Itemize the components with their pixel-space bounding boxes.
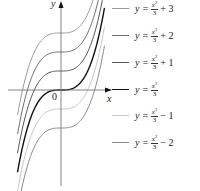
y-axis-label: y <box>51 0 55 9</box>
legend-item: y = x33 + 2 <box>112 26 173 44</box>
legend-item: y = x33 <box>112 80 160 98</box>
legend-label: y = x33 + 1 <box>135 53 173 71</box>
legend-item: y = x33 − 1 <box>112 106 173 124</box>
legend-swatch <box>112 35 129 36</box>
legend-label: y = x33 − 1 <box>135 106 173 124</box>
legend-swatch <box>112 115 129 116</box>
legend-swatch <box>112 8 129 9</box>
x-axis-label: x <box>107 93 111 104</box>
legend-swatch <box>112 62 129 63</box>
legend: y = x33 + 3 y = x33 + 2 y = x33 + 1 y = … <box>112 0 200 191</box>
legend-label: y = x33 + 2 <box>135 26 173 44</box>
origin-label: 0 <box>52 91 57 102</box>
legend-label: y = x33 − 2 <box>135 133 173 151</box>
legend-item: y = x33 + 3 <box>112 0 173 17</box>
legend-swatch <box>112 142 129 143</box>
legend-item: y = x33 + 1 <box>112 53 173 71</box>
legend-item: y = x33 − 2 <box>112 133 173 151</box>
legend-swatch <box>112 89 129 90</box>
legend-label: y = x33 + 3 <box>135 0 173 17</box>
legend-label: y = x33 <box>135 80 160 98</box>
x-axis-arrow-icon <box>105 88 112 93</box>
y-axis-arrow-icon <box>59 1 64 8</box>
